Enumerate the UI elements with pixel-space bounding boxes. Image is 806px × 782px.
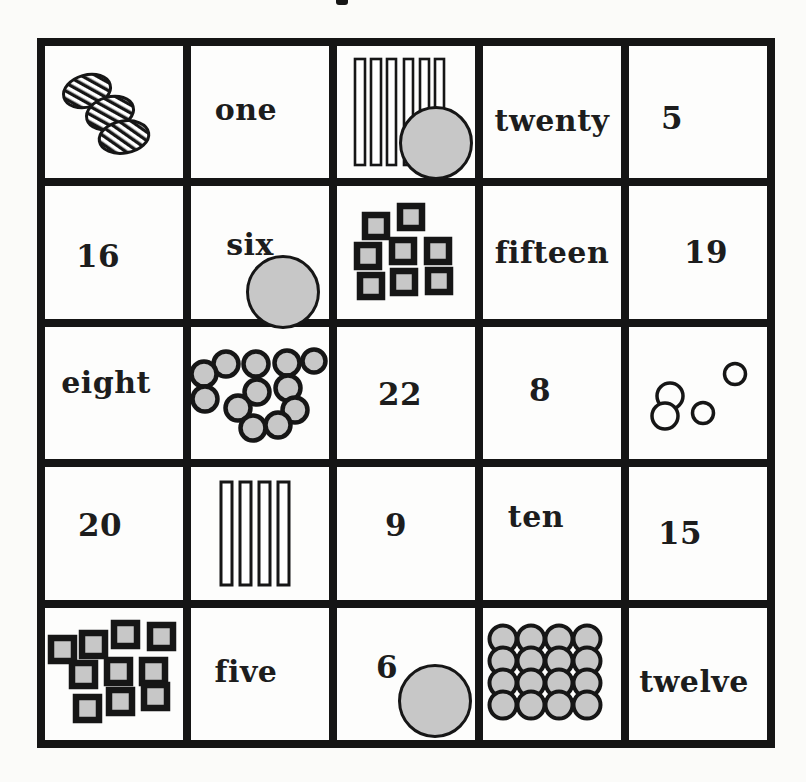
outline-circles-picture: [629, 327, 767, 459]
cell-number: 5: [661, 103, 683, 134]
cell-r1c3: [333, 42, 479, 182]
cell-r5c4: [479, 604, 625, 744]
cell-number: 16: [76, 241, 120, 272]
cell-r3c1: eight: [41, 323, 187, 463]
cell-r1c5: 5: [625, 42, 771, 182]
circles-cluster-picture: [191, 327, 329, 459]
cell-word: fifteen: [495, 238, 610, 268]
cell-word: twelve: [639, 667, 749, 697]
cell-r2c2: six: [187, 182, 333, 322]
cell-number: 20: [78, 510, 122, 541]
cell-r1c2: one: [187, 42, 333, 182]
cell-word: eight: [61, 368, 151, 398]
cell-r4c2: [187, 463, 333, 603]
cell-r3c3: 22: [333, 323, 479, 463]
cell-r2c1: 16: [41, 182, 187, 322]
cell-word: one: [215, 95, 277, 125]
cell-r5c2: five: [187, 604, 333, 744]
four-bars-picture: [191, 467, 329, 599]
cell-number: 19: [684, 237, 728, 268]
hatched-ovals-picture: [45, 46, 183, 178]
cell-word: ten: [508, 502, 564, 532]
top-edge-mark: [336, 0, 348, 5]
cell-word: twenty: [495, 106, 610, 136]
cell-r2c4: fifteen: [479, 182, 625, 322]
cell-r1c4: twenty: [479, 42, 625, 182]
cell-word: five: [215, 657, 278, 687]
bingo-grid: one twenty 5 16 six: [37, 38, 775, 748]
cell-number: 9: [385, 510, 407, 541]
cell-r5c1: [41, 604, 187, 744]
cell-r2c5: 19: [625, 182, 771, 322]
bingo-chip: [244, 253, 322, 331]
bingo-chip: [397, 104, 475, 182]
squares-cluster-picture: [337, 186, 475, 318]
cell-r5c3: 6: [333, 604, 479, 744]
cell-number: 6: [376, 652, 398, 683]
cell-number: 8: [529, 375, 551, 406]
circle-grid-picture: [483, 608, 621, 740]
cell-r4c4: ten: [479, 463, 625, 603]
bingo-chip: [396, 662, 474, 740]
cell-number: 22: [378, 379, 422, 410]
cell-r2c3: [333, 182, 479, 322]
cell-r3c4: 8: [479, 323, 625, 463]
squares-cluster-picture: [45, 608, 183, 740]
cell-r4c3: 9: [333, 463, 479, 603]
cell-r4c1: 20: [41, 463, 187, 603]
cell-number: 15: [658, 518, 702, 549]
cell-r5c5: twelve: [625, 604, 771, 744]
cell-r1c1: [41, 42, 187, 182]
cell-r4c5: 15: [625, 463, 771, 603]
cell-r3c5: [625, 323, 771, 463]
cell-r3c2: [187, 323, 333, 463]
